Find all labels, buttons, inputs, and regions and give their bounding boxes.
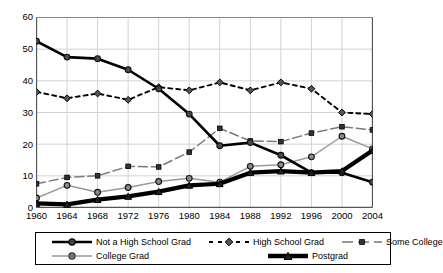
y-tick-label: 60: [3, 12, 33, 22]
plot-area: [36, 17, 373, 208]
legend-label: Postgrad: [310, 252, 348, 261]
y-tick-label: 30: [3, 108, 33, 118]
series-postgrad: [36, 147, 373, 207]
series-high-school-grad: [36, 79, 373, 117]
legend-key-dashed-gray-square: [340, 236, 384, 248]
legend-key-dashed-diamond: [207, 236, 251, 248]
x-axis: 1960196419681972197619801984198819921996…: [36, 211, 373, 227]
y-tick-label: 50: [3, 44, 33, 54]
legend-item-postgrad[interactable]: Postgrad: [266, 249, 348, 263]
y-tick-label: 10: [3, 171, 33, 181]
legend-key-solid-thick-circle: [50, 236, 94, 248]
legend-label: Some College: [384, 238, 443, 247]
legend-row-1: Not a High School Grad High School Grad …: [36, 235, 390, 249]
legend-key-solid-xthick-triangle: [266, 250, 310, 262]
chart-legend: Not a High School Grad High School Grad …: [35, 232, 391, 265]
legend-item-college-grad[interactable]: College Grad: [50, 249, 149, 263]
y-tick-label: 40: [3, 76, 33, 86]
series-college-grad: [36, 133, 373, 201]
legend-item-not-a-high-school-grad[interactable]: Not a High School Grad: [50, 235, 191, 249]
chart-svg: [36, 17, 373, 208]
legend-row-2: College Grad Postgrad: [36, 249, 390, 263]
legend-key-solid-gray-circle: [50, 250, 94, 262]
gridlines: [37, 18, 373, 208]
x-tick-label: 2004: [353, 211, 393, 221]
legend-label: High School Grad: [251, 238, 324, 247]
legend-label: College Grad: [94, 252, 149, 261]
y-tick-label: 20: [3, 140, 33, 150]
legend-item-some-college[interactable]: Some College: [340, 235, 443, 249]
series-not-a-high-school-grad: [36, 38, 373, 185]
legend-label: Not a High School Grad: [94, 238, 191, 247]
legend-item-high-school-grad[interactable]: High School Grad: [207, 235, 324, 249]
data-series-layer: [36, 38, 373, 207]
y-axis: 60 50 40 30 20 10 0: [0, 0, 33, 225]
series-some-college: [36, 124, 373, 186]
